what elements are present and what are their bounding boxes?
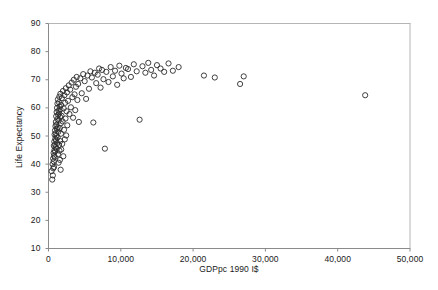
data-point xyxy=(166,61,171,66)
data-point xyxy=(137,117,142,122)
data-point xyxy=(73,108,78,113)
y-tick-label: 10 xyxy=(11,243,41,253)
y-tick-label: 70 xyxy=(11,74,41,84)
data-point xyxy=(110,74,115,79)
x-tick-label: 20,000 xyxy=(163,254,223,264)
data-point xyxy=(201,73,206,78)
data-point xyxy=(65,123,70,128)
data-point xyxy=(212,75,217,80)
data-point xyxy=(91,120,96,125)
scatter-chart: 102030405060708090 010,00020,00030,00040… xyxy=(0,0,438,290)
data-point xyxy=(176,64,181,69)
y-tick-label: 30 xyxy=(11,187,41,197)
data-point xyxy=(121,76,126,81)
data-point xyxy=(106,79,111,84)
data-point xyxy=(146,60,151,65)
data-point xyxy=(149,67,154,72)
data-point xyxy=(98,85,103,90)
data-point xyxy=(241,74,246,79)
data-point xyxy=(104,69,109,74)
data-point xyxy=(75,97,80,102)
y-tick-label: 80 xyxy=(11,46,41,56)
data-point xyxy=(140,64,145,69)
data-point xyxy=(108,64,113,69)
data-point xyxy=(102,146,107,151)
x-tick-label: 0 xyxy=(19,254,79,264)
data-point xyxy=(61,154,66,159)
data-point xyxy=(115,82,120,87)
data-point xyxy=(76,119,81,124)
data-point xyxy=(170,68,175,73)
data-point xyxy=(128,74,133,79)
data-point xyxy=(70,115,75,120)
x-tick-label: 30,000 xyxy=(235,254,295,264)
plot-canvas xyxy=(0,0,438,290)
data-point xyxy=(101,77,106,82)
x-tick-label: 10,000 xyxy=(91,254,151,264)
axis-frame xyxy=(48,23,411,249)
y-tick-label: 90 xyxy=(11,18,41,28)
data-point xyxy=(89,75,94,80)
data-point-group xyxy=(49,60,368,182)
y-tick-label: 20 xyxy=(11,215,41,225)
data-point xyxy=(143,70,148,75)
data-point xyxy=(237,81,242,86)
data-point xyxy=(117,63,122,68)
tick-marks xyxy=(46,24,411,252)
data-point xyxy=(82,79,87,84)
data-point xyxy=(162,69,167,74)
data-point xyxy=(58,167,63,172)
data-point xyxy=(134,69,139,74)
data-point xyxy=(86,86,91,91)
data-point xyxy=(363,93,368,98)
data-point xyxy=(112,68,117,73)
x-tick-label: 40,000 xyxy=(308,254,368,264)
data-point xyxy=(79,91,84,96)
x-axis-title: GDPpc 1990 I$ xyxy=(149,264,309,274)
x-tick-label: 50,000 xyxy=(380,254,438,264)
data-point xyxy=(131,62,136,67)
data-point xyxy=(84,96,89,101)
data-point xyxy=(151,73,156,78)
y-axis-title: Life Expectancy xyxy=(14,106,24,168)
data-point xyxy=(94,81,99,86)
